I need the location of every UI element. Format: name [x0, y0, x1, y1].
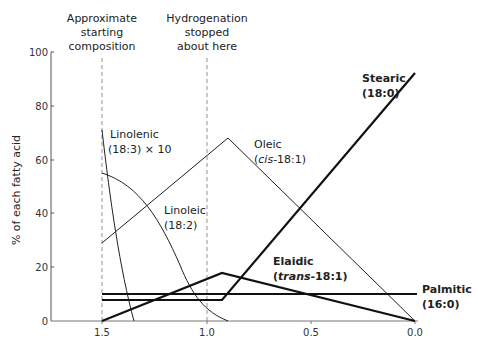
svg-text:(18:3) × 10: (18:3) × 10 [108, 143, 172, 156]
y-axis-label: % of each fatty acid [10, 135, 23, 245]
y-tick-0: 0 [42, 316, 48, 327]
svg-text:Palmitic: Palmitic [422, 283, 472, 296]
y-tick-80: 80 [35, 101, 48, 112]
label-stearic: Stearic (18:0) [362, 72, 406, 100]
svg-text:(trans-18:1): (trans-18:1) [273, 270, 347, 283]
linolenic-line [102, 130, 134, 321]
svg-text:Oleic: Oleic [254, 138, 282, 151]
x-tick-0.5: 0.5 [303, 327, 319, 338]
svg-text:composition: composition [68, 40, 135, 53]
label-oleic-rest: -18:1) [273, 153, 306, 166]
label-elaidic: Elaidic (trans-18:1) [273, 255, 347, 283]
linoleic-line [102, 173, 228, 321]
svg-text:(cis-18:1): (cis-18:1) [254, 153, 306, 166]
svg-text:(18:0): (18:0) [362, 87, 399, 100]
svg-text:stopped: stopped [185, 26, 230, 39]
x-tick-1.5: 1.5 [94, 327, 110, 338]
y-tick-20: 20 [35, 262, 48, 273]
svg-text:Approximate: Approximate [67, 12, 137, 25]
stearic-line [102, 73, 415, 300]
annotation-hydrogenation-stopped: Hydrogenation stopped about here [166, 12, 247, 53]
y-tick-100: 100 [29, 47, 48, 58]
label-elaidic-italic: trans [278, 270, 311, 283]
label-oleic: Oleic (cis-18:1) [254, 138, 306, 166]
y-tick-60: 60 [35, 155, 48, 166]
x-tick-0.0: 0.0 [407, 327, 423, 338]
svg-text:Elaidic: Elaidic [273, 255, 314, 268]
svg-text:(16:0): (16:0) [422, 298, 459, 311]
x-tick-1.0: 1.0 [199, 327, 215, 338]
label-palmitic: Palmitic (16:0) [422, 283, 472, 311]
label-linoleic: Linoleic (18:2) [164, 204, 206, 232]
fatty-acid-chart: 100 80 60 40 20 0 1.5 1.0 0.5 0.0 % of e… [0, 0, 478, 350]
elaidic-line [102, 273, 415, 321]
label-linolenic: Linolenic (18:3) × 10 [108, 128, 172, 156]
y-ticks: 100 80 60 40 20 0 [29, 47, 54, 327]
svg-text:about here: about here [177, 40, 237, 53]
svg-text:Linoleic: Linoleic [164, 204, 206, 217]
label-elaidic-rest: -18:1) [311, 270, 348, 283]
svg-text:Linolenic: Linolenic [110, 128, 159, 141]
label-oleic-italic: cis [258, 153, 273, 166]
y-tick-40: 40 [35, 208, 48, 219]
svg-text:starting: starting [81, 26, 124, 39]
svg-text:Stearic: Stearic [362, 72, 406, 85]
svg-text:Hydrogenation: Hydrogenation [166, 12, 247, 25]
x-ticks: 1.5 1.0 0.5 0.0 [94, 321, 423, 338]
annotation-starting-composition: Approximate starting composition [67, 12, 137, 53]
svg-text:(18:2): (18:2) [164, 219, 197, 232]
